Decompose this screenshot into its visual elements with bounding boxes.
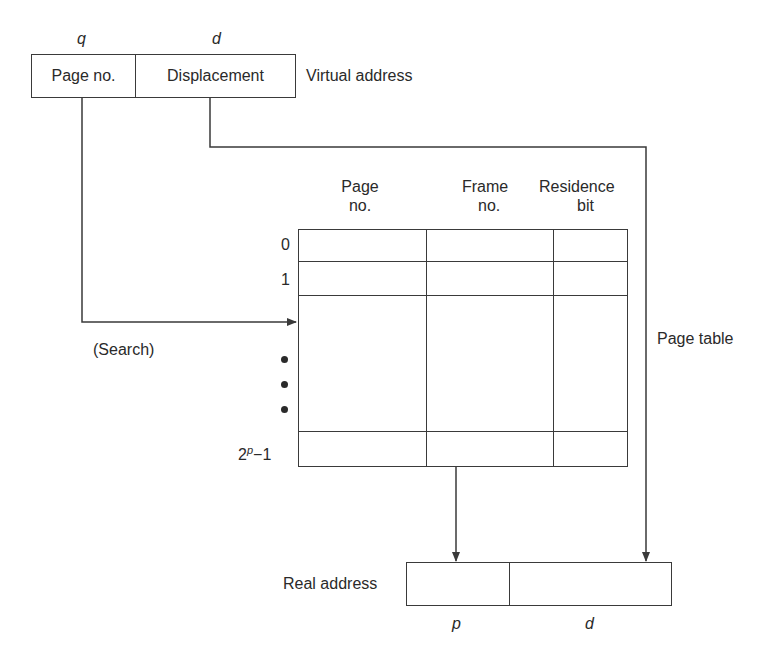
virtual-address-label: Virtual address: [306, 67, 412, 85]
col-header-frame-line1: Frame: [462, 178, 508, 196]
ellipsis-dot-icon: [281, 381, 288, 388]
real-displacement-symbol: d: [585, 615, 594, 633]
row-label-0: 0: [281, 236, 290, 254]
real-address-label: Real address: [283, 575, 377, 593]
virtual-page-symbol: q: [77, 30, 86, 48]
col-header-page-line1: Page: [330, 178, 390, 196]
virtual-address-box: Page no. Displacement: [31, 54, 296, 98]
row-label-last-suffix: −1: [253, 446, 271, 463]
real-address-divider: [509, 563, 510, 605]
virtual-displacement-field: Displacement: [136, 55, 295, 97]
page-table-label: Page table: [657, 330, 734, 348]
row-label-last: 2p−1: [238, 441, 271, 464]
real-frame-symbol: p: [452, 615, 461, 633]
row-label-last-base: 2: [238, 446, 247, 463]
real-address-box: [406, 562, 672, 606]
search-label: (Search): [93, 341, 154, 359]
page-table-row-divider-3: [299, 431, 627, 432]
ellipsis-dot-icon: [281, 356, 288, 363]
page-table-row-divider-1: [299, 261, 627, 262]
ellipsis-dot-icon: [281, 406, 288, 413]
col-header-frame-line2: no.: [478, 197, 500, 215]
page-table-row-divider-2: [299, 295, 627, 296]
virtual-displacement-symbol: d: [212, 30, 221, 48]
search-arrow: [82, 97, 296, 322]
col-header-page-line2: no.: [330, 197, 390, 215]
page-table: [298, 229, 628, 467]
virtual-page-field: Page no.: [32, 55, 135, 97]
row-label-1: 1: [281, 271, 290, 289]
col-header-residence-line1: Residence: [539, 178, 615, 196]
col-header-residence-line2: bit: [577, 197, 594, 215]
